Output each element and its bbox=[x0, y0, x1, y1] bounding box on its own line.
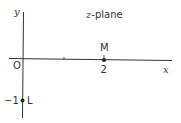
x-axis bbox=[9, 59, 172, 61]
point-m-label: M bbox=[100, 42, 109, 53]
y-axis-label: y bbox=[13, 6, 20, 17]
point-l-label: L bbox=[27, 95, 33, 106]
plane-title: z-plane bbox=[85, 9, 123, 20]
plane-title-rest: -plane bbox=[91, 9, 122, 20]
point-m bbox=[102, 58, 106, 62]
point-m-value: 2 bbox=[101, 64, 107, 75]
x-axis-label: x bbox=[163, 64, 169, 75]
z-plane-diagram: y O x z-plane M 2 −1 L bbox=[0, 0, 181, 123]
origin-label: O bbox=[13, 60, 21, 71]
point-l bbox=[21, 99, 25, 103]
point-l-value: −1 bbox=[4, 95, 19, 106]
